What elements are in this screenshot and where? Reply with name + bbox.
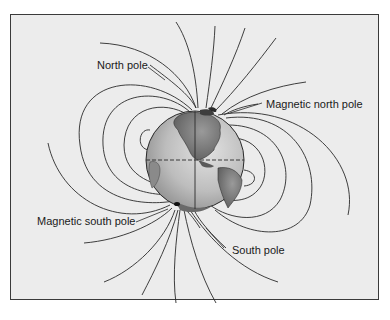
magnetic-field-diagram — [0, 0, 390, 320]
south-pole-label: South pole — [232, 244, 285, 256]
north-pole-label: North pole — [97, 59, 148, 71]
magnetic-north-pole-label: Magnetic north pole — [266, 98, 363, 110]
magnetic-south-pole-label: Magnetic south pole — [37, 215, 135, 227]
earth-globe — [146, 107, 244, 212]
